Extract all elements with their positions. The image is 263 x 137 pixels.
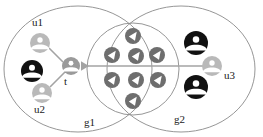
badge-b7[interactable] bbox=[150, 72, 166, 88]
person-icon-u1 bbox=[30, 33, 50, 53]
node-label-u2: u2 bbox=[34, 104, 45, 115]
person-head-icon bbox=[193, 80, 199, 86]
person-head-icon bbox=[69, 61, 74, 66]
node-black3[interactable] bbox=[184, 75, 208, 99]
person-head-icon bbox=[37, 37, 42, 42]
diagram-canvas: u1 u2 t u3 g1 g2 bbox=[0, 0, 263, 137]
node-u3[interactable] bbox=[202, 56, 222, 76]
group-label-g1: g1 bbox=[84, 117, 95, 128]
badge-b6[interactable] bbox=[128, 72, 144, 88]
person-head-icon bbox=[39, 87, 44, 92]
badge-b1[interactable] bbox=[125, 28, 141, 44]
node-black2[interactable] bbox=[184, 31, 208, 55]
person-head-icon bbox=[209, 60, 214, 65]
badge-b3[interactable] bbox=[128, 48, 144, 64]
person-icon-black2 bbox=[184, 31, 208, 55]
node-label-u3: u3 bbox=[224, 70, 235, 81]
edge-e-u1-t bbox=[49, 48, 63, 62]
badge-b4[interactable] bbox=[149, 47, 165, 63]
badge-b8[interactable] bbox=[125, 93, 141, 109]
person-icon-t bbox=[62, 57, 80, 75]
person-icon-black3 bbox=[184, 75, 208, 99]
group-label-g2: g2 bbox=[174, 114, 185, 125]
node-label-t: t bbox=[64, 76, 67, 87]
badge-b5[interactable] bbox=[104, 72, 120, 88]
person-icon-black1 bbox=[21, 60, 43, 82]
person-head-icon bbox=[29, 65, 35, 71]
node-u1[interactable] bbox=[30, 33, 50, 53]
person-icon-u3 bbox=[202, 56, 222, 76]
edge-e-u2-t bbox=[50, 72, 65, 87]
node-t[interactable] bbox=[62, 57, 80, 75]
person-head-icon bbox=[193, 36, 199, 42]
node-u2[interactable] bbox=[32, 83, 52, 103]
node-label-u1: u1 bbox=[32, 17, 43, 28]
person-icon-u2 bbox=[32, 83, 52, 103]
node-black1[interactable] bbox=[21, 60, 43, 82]
badge-b2[interactable] bbox=[104, 47, 120, 63]
